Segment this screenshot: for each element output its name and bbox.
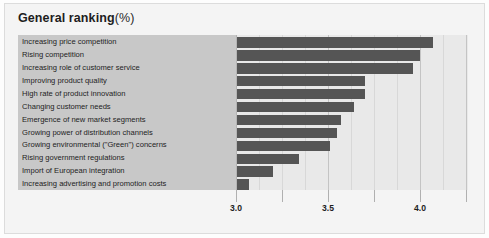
bar	[236, 102, 354, 112]
category-label: Changing customer needs	[22, 101, 234, 114]
x-axis-tick-label: 4.0	[414, 203, 426, 213]
category-label-panel: Increasing price competitionRising compe…	[18, 35, 236, 190]
bar	[236, 179, 249, 189]
bar	[236, 37, 433, 47]
bar	[236, 50, 420, 60]
axis-baseline	[236, 35, 237, 202]
category-label: Rising government regulations	[22, 152, 234, 165]
chart-figure: General ranking(%) Increasing price comp…	[0, 0, 489, 238]
category-label: Increasing advertising and promotion cos…	[22, 178, 234, 191]
chart-title-main: General ranking	[18, 11, 115, 25]
bar	[236, 154, 299, 164]
tick-mark-minor	[282, 190, 283, 202]
bar	[236, 63, 413, 73]
x-axis-tick-label: 3.0	[230, 203, 242, 213]
category-label: Growing power of distribution channels	[22, 127, 234, 140]
gridline-major	[420, 35, 421, 190]
chart-title-unit: (%)	[115, 11, 135, 25]
plot-area	[236, 35, 468, 190]
bar	[236, 141, 330, 151]
gridline-minor	[443, 35, 444, 190]
x-axis-tick-label: 3.5	[322, 203, 334, 213]
category-label: Rising competition	[22, 49, 234, 62]
category-label: Import of European integration	[22, 165, 234, 178]
bar	[236, 76, 365, 86]
category-label: High rate of product innovation	[22, 88, 234, 101]
bar	[236, 128, 337, 138]
category-label: Increasing role of customer service	[22, 62, 234, 75]
bar	[236, 115, 341, 125]
chart-title: General ranking(%)	[18, 11, 134, 25]
category-label: Emergence of new market segments	[22, 114, 234, 127]
bar	[236, 89, 365, 99]
category-label: Growing environmental ("Green") concerns	[22, 139, 234, 152]
bar	[236, 166, 273, 176]
tick-mark	[236, 190, 237, 202]
tick-mark	[420, 190, 421, 202]
tick-mark-minor	[374, 190, 375, 202]
tick-mark-minor	[466, 190, 467, 202]
category-label: Improving product quality	[22, 75, 234, 88]
gridline-major	[466, 35, 467, 190]
category-label: Increasing price competition	[22, 36, 234, 49]
tick-mark	[328, 190, 329, 202]
